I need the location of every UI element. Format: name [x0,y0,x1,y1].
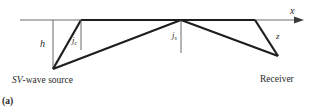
source-depth-label: h [40,38,45,49]
source-label: SV-wave source [12,75,73,85]
specular-angle-label: js [171,30,178,41]
receiver-label: Receiver [260,74,295,84]
specular-reflected-ray [181,20,278,56]
x-axis-arrow [294,17,304,24]
panel-label: (a) [2,96,13,107]
source-label-rest: -wave source [23,75,73,85]
receiver-depth-label: z [275,31,280,41]
critical-angle-label: jc [71,35,78,46]
specular-angle-subscript: s [175,35,178,41]
critical-angle-subscript: c [75,40,78,46]
x-axis-label: x [289,5,295,16]
seismic-ray-diagram: x h jc js z SV-wave source Receiver (a) [0,0,312,107]
